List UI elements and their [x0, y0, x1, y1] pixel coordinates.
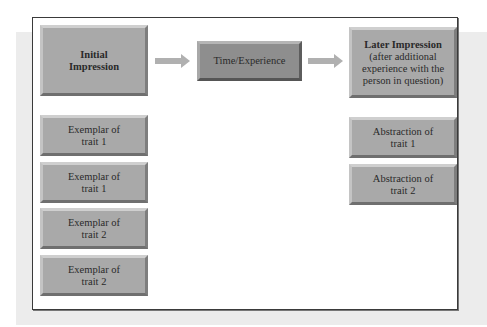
abstraction-trait: trait 2 — [391, 185, 416, 196]
later-impression-box: Later Impression (after additional exper… — [349, 27, 457, 98]
exemplar-trait: trait 2 — [82, 229, 107, 240]
exemplar-box: Exemplar of trait 1 — [40, 162, 148, 203]
initial-line-1: Initial — [80, 49, 107, 60]
abstraction-box: Abstraction of trait 1 — [349, 117, 457, 158]
later-subtitle-2: experience with the — [362, 63, 444, 74]
exemplar-trait: trait 1 — [82, 183, 107, 194]
initial-impression-box: Initial Impression — [40, 25, 148, 96]
later-title: Later Impression — [364, 39, 442, 50]
exemplar-box: Exemplar of trait 2 — [40, 255, 148, 296]
later-subtitle-1: (after additional — [369, 51, 436, 62]
exemplar-trait: trait 2 — [82, 276, 107, 287]
time-experience-box: Time/Experience — [197, 41, 302, 81]
initial-line-2: Impression — [69, 61, 119, 72]
exemplar-label: Exemplar of — [68, 217, 120, 228]
later-subtitle-3: person in question) — [363, 75, 444, 86]
abstraction-trait: trait 1 — [391, 138, 416, 149]
exemplar-box: Exemplar of trait 1 — [40, 115, 148, 156]
abstraction-label: Abstraction of — [373, 126, 433, 137]
exemplar-label: Exemplar of — [68, 264, 120, 275]
arrow-right-icon — [308, 54, 344, 68]
exemplar-label: Exemplar of — [68, 171, 120, 182]
time-experience-label: Time/Experience — [214, 55, 286, 67]
arrow-right-icon — [155, 54, 191, 68]
exemplar-trait: trait 1 — [82, 136, 107, 147]
abstraction-label: Abstraction of — [373, 173, 433, 184]
exemplar-label: Exemplar of — [68, 124, 120, 135]
exemplar-box: Exemplar of trait 2 — [40, 208, 148, 249]
abstraction-box: Abstraction of trait 2 — [349, 164, 457, 205]
